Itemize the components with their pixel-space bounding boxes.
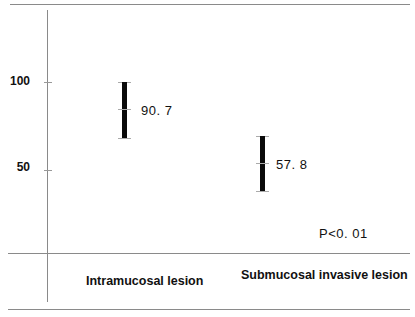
error-bar-mid-mark [256,163,269,164]
category-label-intramucosal: Intramucosal lesion [86,274,203,288]
p-value-annotation: P<0. 01 [319,226,368,241]
value-label-submucosal: 57. 8 [276,157,307,172]
error-bar-bottom-cap [256,191,269,192]
y-tick-label-100: 100 [0,74,30,88]
error-bar-line [122,82,127,138]
top-border-line [10,4,410,5]
error-bar-mid-mark [118,109,131,110]
bottom-border-line [8,309,410,310]
category-label-submucosal: Submucosal invasive lesion [241,268,408,282]
y-tick-100 [44,82,52,83]
y-tick-50 [44,170,52,171]
value-label-intramucosal: 90. 7 [141,103,172,118]
category-separator-line [8,253,410,254]
error-bar-bottom-cap [118,138,131,139]
y-axis-line [47,10,48,302]
y-tick-label-50: 50 [0,160,30,174]
